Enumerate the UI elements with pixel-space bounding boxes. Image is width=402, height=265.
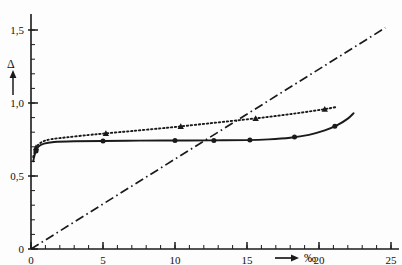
x-axis-major-ticks: [31, 242, 391, 249]
series-line-lower-solid: [33, 113, 353, 161]
series-line-upper-dotted: [33, 107, 336, 157]
x-tick-label: 10: [170, 254, 182, 265]
data-point-marker-circle: [101, 138, 106, 143]
y-axis-label: Δ: [7, 57, 15, 71]
data-point-marker-circle: [173, 138, 178, 143]
data-point-marker-circle: [211, 138, 216, 143]
data-point-marker-circle: [247, 137, 252, 142]
y-axis-arrowhead-icon: [10, 70, 17, 78]
x-axis-tick-labels: 0510152025: [28, 254, 397, 265]
y-axis-major-ticks: [28, 30, 38, 249]
data-point-marker-circle: [292, 135, 297, 140]
x-tick-label: 5: [100, 254, 106, 265]
x-tick-label: 25: [386, 254, 398, 265]
data-point-marker-circle: [332, 124, 337, 129]
figure-container: 0510152025 00,51,01,5 ‰ Δ: [0, 0, 402, 265]
y-axis-label-group: Δ: [7, 57, 16, 95]
y-tick-label: 1,0: [10, 97, 24, 109]
x-tick-label: 0: [28, 254, 34, 265]
y-tick-label: 0: [19, 243, 25, 255]
x-axis-label: ‰: [304, 251, 316, 265]
y-tick-label: 1,5: [10, 24, 24, 36]
chart-plot: 0510152025 00,51,01,5 ‰ Δ: [0, 0, 402, 265]
y-tick-label: 0,5: [10, 170, 24, 182]
x-axis-label-group: ‰: [275, 251, 316, 265]
x-axis-arrowhead-icon: [291, 254, 299, 261]
data-point-marker-circle: [34, 148, 39, 153]
data-series-layer: [31, 28, 385, 249]
series-line-diagonal-dashdot: [31, 28, 385, 249]
x-tick-label: 15: [242, 254, 254, 265]
